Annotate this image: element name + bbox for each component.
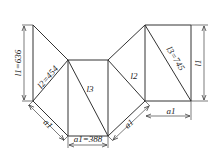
development-diagram: l1=636 l2=454 l3 a1=388 a1 l2 l3=745 l1 … [0,0,218,164]
right-top-diagonal [108,25,145,60]
label-l1-left: l1=636 [13,49,23,76]
center-panel [68,60,108,136]
left-top-diagonal [33,25,68,60]
label-l3-right: l3=745 [164,44,187,72]
right-diagonal-l2 [108,60,145,101]
label-l2-left: l2=454 [35,63,60,90]
label-a1-right-diag: a1 [122,117,135,130]
label-l2-right: l2 [130,71,138,81]
label-l1-right: l1 [193,59,203,66]
label-l3-center: l3 [86,84,94,94]
label-a1-bottom: a1=388 [74,134,103,144]
right-panel [108,25,191,136]
center-diagonal-l3 [68,60,108,136]
label-a1-right: a1 [167,106,176,116]
